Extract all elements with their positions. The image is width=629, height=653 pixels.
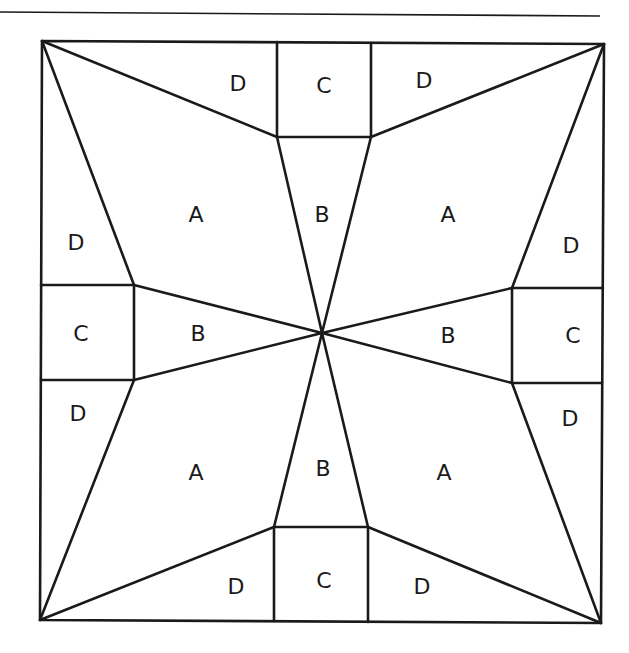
quilt-block-diagram: D C D A B A D D C B B C D D A B A D C D bbox=[0, 0, 629, 653]
br-to-bottom-c-line bbox=[368, 527, 601, 623]
label-lower-a-left: A bbox=[188, 460, 203, 485]
top-rule-divider bbox=[0, 12, 600, 16]
label-upper-a-left: A bbox=[188, 202, 203, 227]
label-left-b: B bbox=[190, 321, 205, 346]
label-top-d-left: D bbox=[230, 71, 247, 96]
tr-to-right-c-line bbox=[512, 44, 604, 288]
label-upper-a-right: A bbox=[440, 202, 455, 227]
top-b-right-edge bbox=[322, 137, 371, 333]
left-b-bottom-edge bbox=[134, 333, 322, 380]
label-right-d-lower: D bbox=[562, 406, 579, 431]
bottom-b-left-edge bbox=[274, 333, 322, 527]
label-left-d-lower: D bbox=[70, 401, 87, 426]
label-right-d-upper: D bbox=[563, 233, 580, 258]
label-lower-a-right: A bbox=[436, 460, 451, 485]
label-lower-b: B bbox=[315, 456, 330, 481]
tl-to-left-c-line bbox=[42, 41, 134, 285]
top-b-left-edge bbox=[277, 137, 322, 333]
label-left-c: C bbox=[73, 321, 88, 346]
label-right-b: B bbox=[440, 323, 455, 348]
label-right-c: C bbox=[565, 323, 580, 348]
right-b-bottom-edge bbox=[322, 333, 512, 383]
bottom-b-right-edge bbox=[322, 333, 368, 527]
tr-to-top-c-line bbox=[371, 44, 604, 137]
right-c-square bbox=[512, 288, 603, 383]
bl-to-left-c-line bbox=[40, 380, 134, 620]
label-bottom-d-right: D bbox=[414, 574, 431, 599]
br-to-right-c-line bbox=[512, 383, 601, 623]
right-b-top-edge bbox=[322, 288, 512, 333]
label-upper-b: B bbox=[314, 202, 329, 227]
label-top-d-right: D bbox=[416, 68, 433, 93]
label-top-c: C bbox=[316, 73, 331, 98]
label-bottom-c: C bbox=[316, 568, 331, 593]
left-b-top-edge bbox=[134, 285, 322, 333]
label-left-d-upper: D bbox=[68, 230, 85, 255]
label-bottom-d-left: D bbox=[228, 574, 245, 599]
